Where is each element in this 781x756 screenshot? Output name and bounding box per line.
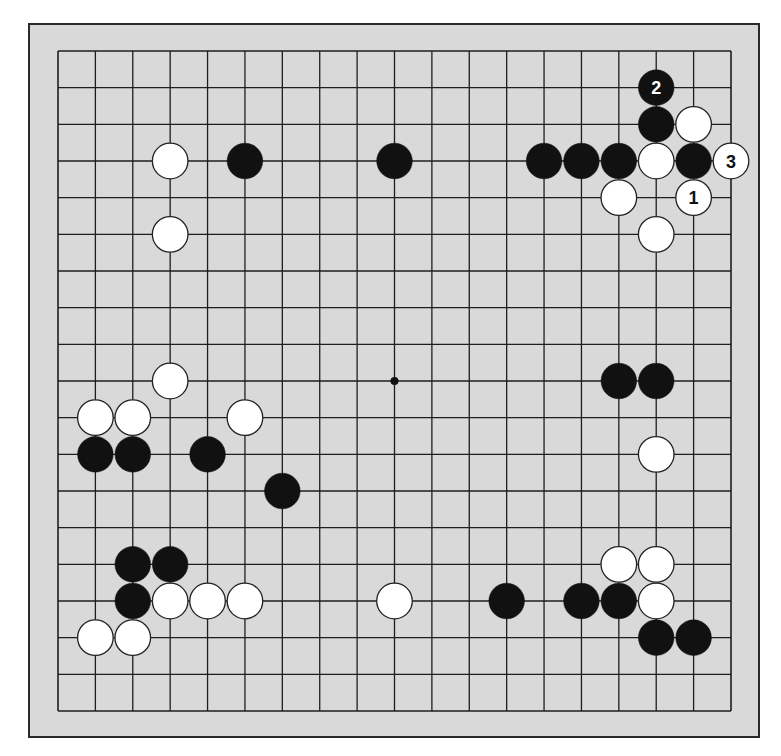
white-stone bbox=[601, 547, 637, 583]
black-stone bbox=[676, 620, 712, 656]
black-stone bbox=[564, 583, 600, 619]
black-stone bbox=[676, 143, 712, 179]
white-stone bbox=[78, 400, 114, 436]
white-stone bbox=[152, 217, 188, 253]
white-stone bbox=[152, 143, 188, 179]
black-stone bbox=[377, 143, 413, 179]
black-stone bbox=[489, 583, 525, 619]
white-stone bbox=[638, 437, 674, 473]
black-stone bbox=[526, 143, 562, 179]
black-stone bbox=[564, 143, 600, 179]
white-stone bbox=[638, 547, 674, 583]
black-stone bbox=[115, 547, 151, 583]
black-stone-move-2: 2 bbox=[638, 70, 674, 106]
black-stone bbox=[152, 547, 188, 583]
black-stone bbox=[638, 363, 674, 399]
white-stone bbox=[152, 363, 188, 399]
white-stone bbox=[377, 583, 413, 619]
white-stone bbox=[227, 400, 263, 436]
white-stone bbox=[152, 583, 188, 619]
white-stone bbox=[638, 143, 674, 179]
black-stone bbox=[115, 437, 151, 473]
white-stone-move-3: 3 bbox=[713, 143, 749, 179]
white-stone-move-1: 1 bbox=[676, 180, 712, 216]
black-stone bbox=[115, 583, 151, 619]
white-stone bbox=[190, 583, 226, 619]
black-stone bbox=[638, 107, 674, 143]
black-stone bbox=[601, 583, 637, 619]
stones-layer: 231 bbox=[78, 70, 749, 656]
black-stone bbox=[190, 437, 226, 473]
black-stone bbox=[78, 437, 114, 473]
white-stone bbox=[638, 583, 674, 619]
white-stone bbox=[601, 180, 637, 216]
move-number-label: 3 bbox=[726, 152, 736, 172]
white-stone bbox=[115, 400, 151, 436]
white-stone bbox=[227, 583, 263, 619]
black-stone bbox=[601, 363, 637, 399]
move-number-label: 1 bbox=[689, 188, 699, 208]
go-board: 231 bbox=[0, 0, 781, 756]
black-stone bbox=[227, 143, 263, 179]
star-point bbox=[391, 377, 399, 385]
move-number-label: 2 bbox=[651, 78, 661, 98]
black-stone bbox=[265, 473, 301, 509]
white-stone bbox=[115, 620, 151, 656]
white-stone bbox=[638, 217, 674, 253]
black-stone bbox=[601, 143, 637, 179]
black-stone bbox=[638, 620, 674, 656]
star-points bbox=[391, 377, 399, 385]
white-stone bbox=[78, 620, 114, 656]
white-stone bbox=[676, 107, 712, 143]
